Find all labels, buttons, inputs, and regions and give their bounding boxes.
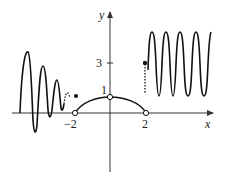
x-tick-label-2: 2	[142, 117, 148, 131]
y-axis-label: y	[98, 8, 105, 22]
right-filled-dot	[143, 61, 147, 65]
x-tick-label-neg2: −2	[64, 117, 77, 131]
left-oscillation-curve	[20, 52, 64, 132]
open-circle-2	[143, 110, 148, 115]
y-tick-label-1: 1	[101, 83, 107, 97]
open-circle-0-1	[107, 94, 112, 99]
left-dashed-segment	[64, 93, 70, 104]
open-circle-neg2	[72, 110, 77, 115]
y-tick-label-3: 3	[96, 56, 102, 70]
x-axis-label: x	[204, 117, 211, 131]
right-oscillation-curve	[148, 32, 211, 96]
left-filled-dot	[74, 94, 78, 98]
function-graph: y x 3 1 −2 2	[0, 0, 226, 179]
